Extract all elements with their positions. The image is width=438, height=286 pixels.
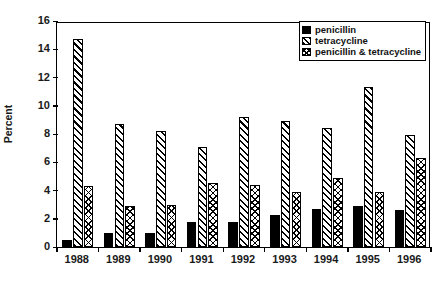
legend-item: penicillin & tetracycline (302, 47, 421, 58)
y-tick-mark (53, 21, 58, 22)
bar (156, 131, 166, 247)
bar (250, 185, 260, 247)
y-tick-label: 8 (44, 127, 50, 139)
legend-label-penicillin-and-tetracycline: penicillin & tetracycline (315, 47, 421, 57)
legend: penicillin tetracycline penicillin & tet… (299, 21, 426, 61)
bar (353, 206, 363, 247)
bar (405, 135, 415, 247)
bar (187, 222, 197, 247)
x-tick-mark (347, 247, 348, 252)
y-tick-mark (53, 190, 58, 191)
bar (312, 209, 322, 247)
y-tick-label: 14 (38, 42, 50, 54)
bar (84, 186, 94, 247)
bar (239, 117, 249, 247)
legend-label-penicillin: penicillin (315, 25, 356, 35)
bar (228, 222, 238, 247)
y-tick-label: 2 (44, 212, 50, 224)
y-tick-mark (53, 218, 58, 219)
bar (62, 240, 72, 247)
y-tick-label: 10 (38, 99, 50, 111)
x-tick-mark (389, 247, 390, 252)
legend-item: penicillin (302, 25, 421, 36)
bar (73, 39, 83, 247)
y-tick-mark (53, 49, 58, 50)
y-tick-label: 0 (44, 240, 50, 252)
x-tick-mark (264, 247, 265, 252)
bar (416, 158, 426, 247)
legend-swatch-penicillin-and-tetracycline (302, 48, 311, 57)
x-tick-mark (139, 247, 140, 252)
bar (281, 121, 291, 247)
y-tick-mark (53, 134, 58, 135)
bar (333, 178, 343, 247)
x-tick-mark (56, 247, 57, 252)
bar-chart: Percent 0246810121416 198819891990199119… (0, 0, 438, 286)
legend-label-tetracycline: tetracycline (315, 36, 368, 46)
x-tick-mark (223, 247, 224, 252)
bar (270, 215, 280, 247)
bar (364, 87, 374, 247)
bar (208, 183, 218, 247)
bar (198, 147, 208, 247)
bar (395, 210, 405, 247)
bar (125, 206, 135, 247)
bar (322, 128, 332, 247)
bar (104, 233, 114, 247)
y-tick-label: 16 (38, 14, 50, 26)
x-tick-mark (181, 247, 182, 252)
bar (167, 205, 177, 247)
x-tick-mark (306, 247, 307, 252)
bar (292, 192, 302, 247)
bar (115, 124, 125, 247)
x-tick-mark (430, 247, 431, 252)
legend-item: tetracycline (302, 36, 421, 47)
y-tick-label: 12 (38, 71, 50, 83)
x-tick-mark (98, 247, 99, 252)
y-tick-mark (53, 105, 58, 106)
bar (375, 192, 385, 247)
legend-swatch-tetracycline (302, 37, 311, 46)
legend-swatch-penicillin (302, 26, 311, 35)
y-tick-label: 4 (44, 184, 50, 196)
y-axis-title: Percent (2, 94, 14, 154)
bar (145, 233, 155, 247)
y-tick-mark (53, 77, 58, 78)
x-tick-label: 1996 (384, 253, 434, 265)
y-tick-mark (53, 162, 58, 163)
y-tick-label: 6 (44, 155, 50, 167)
